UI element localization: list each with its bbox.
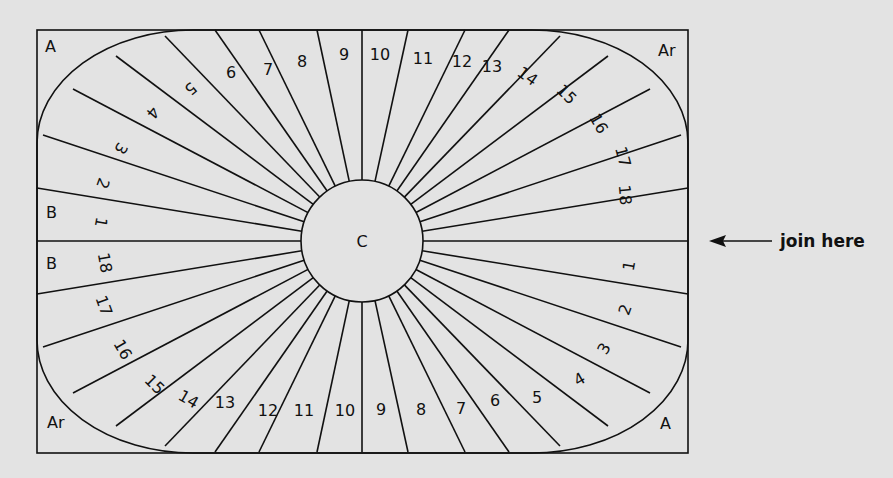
radial-line <box>73 89 308 213</box>
segment-label-bottom: 1 <box>619 259 639 272</box>
radial-line <box>422 188 688 231</box>
segment-label-bottom: 15 <box>141 370 169 398</box>
segment-label-bottom: 6 <box>490 391 500 410</box>
segment-label-bottom: 12 <box>258 401 278 420</box>
segment-label-bottom: 18 <box>94 251 116 274</box>
radial-line <box>420 260 681 347</box>
segment-label-bottom: 16 <box>110 336 137 363</box>
side-label-left-lower: B <box>46 254 57 273</box>
segment-label-bottom: 13 <box>215 393 235 412</box>
radial-line <box>165 285 320 446</box>
segment-label-top: 2 <box>92 175 113 191</box>
join-here-label: join here <box>779 231 865 251</box>
radial-line <box>43 260 304 347</box>
radial-line <box>416 269 650 393</box>
segment-label-top: 18 <box>615 184 636 206</box>
segment-label-top: 11 <box>413 49 433 68</box>
radial-line <box>37 188 302 231</box>
corner-label-top-right: Ar <box>658 41 676 60</box>
segment-label-bottom: 8 <box>416 400 426 419</box>
radial-line <box>37 251 302 294</box>
segment-label-top: 10 <box>370 45 390 64</box>
radial-line <box>116 56 313 204</box>
segment-label-top: 9 <box>339 45 349 64</box>
segment-label-bottom: 14 <box>175 386 202 413</box>
segment-label-top: 3 <box>110 139 132 157</box>
segment-label-top: 4 <box>142 103 163 123</box>
radial-line <box>404 285 560 446</box>
segment-label-top: 16 <box>586 110 613 137</box>
segment-label-bottom: 3 <box>593 339 615 357</box>
segment-label-top: 5 <box>181 78 201 99</box>
segment-label-bottom: 4 <box>570 368 588 390</box>
radial-line <box>259 296 335 452</box>
segment-label-bottom: 9 <box>376 400 386 419</box>
segment-label-top: 17 <box>611 144 635 169</box>
segment-label-bottom: 17 <box>92 293 117 319</box>
segment-label-top: 13 <box>482 57 502 76</box>
radial-line <box>389 296 465 452</box>
quilt-diagram: 1234567891011121314151617181817161514131… <box>0 0 893 478</box>
radial-line <box>73 269 308 393</box>
segment-label-top: 8 <box>297 52 307 71</box>
segment-label-bottom: 11 <box>294 401 314 420</box>
diagram-canvas: 1234567891011121314151617181817161514131… <box>0 0 893 478</box>
segment-label-top: 7 <box>263 60 273 79</box>
segment-label-bottom: 7 <box>456 399 466 418</box>
segment-label-top: 12 <box>452 52 472 71</box>
radial-line <box>420 135 681 222</box>
radial-line <box>422 251 688 294</box>
segment-label-top: 6 <box>226 63 236 82</box>
segment-label-bottom: 2 <box>614 302 635 318</box>
corner-label-top-left: A <box>45 37 56 56</box>
corner-label-bottom-right: A <box>660 414 671 433</box>
side-label-left-upper: B <box>46 203 57 222</box>
segment-label-bottom: 10 <box>335 401 355 420</box>
radial-line <box>411 56 608 204</box>
segment-label-top: 14 <box>514 63 542 90</box>
corner-label-bottom-left: Ar <box>47 413 65 432</box>
segment-label-top: 15 <box>553 80 581 108</box>
radial-line <box>43 135 304 222</box>
segment-label-bottom: 5 <box>532 388 542 407</box>
segment-label-top: 1 <box>91 216 111 229</box>
left-arrow-icon <box>709 235 772 247</box>
center-label: C <box>356 232 367 251</box>
radial-line <box>411 278 608 426</box>
